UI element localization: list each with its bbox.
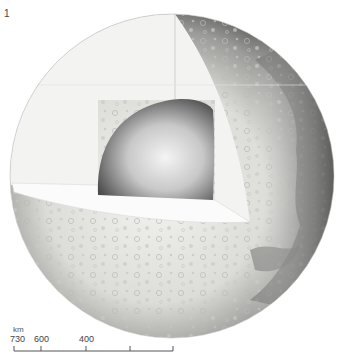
moon-cutaway-illustration [0,0,346,364]
scale-bar [14,346,173,351]
